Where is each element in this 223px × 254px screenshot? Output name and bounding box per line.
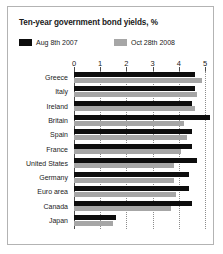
category-label-greece: Greece <box>45 74 68 82</box>
bar-spain-aug-2007 <box>74 129 192 134</box>
legend-label-oct-2008: Oct 28th 2008 <box>131 39 175 46</box>
category-label-canada: Canada <box>43 203 68 211</box>
tick-mark-4 <box>179 67 180 71</box>
bar-japan-aug-2007 <box>74 215 116 220</box>
bar-greece-aug-2007 <box>74 72 195 77</box>
bar-euro-area-aug-2007 <box>74 186 189 191</box>
bar-france-oct-2008 <box>74 149 181 154</box>
category-label-italy: Italy <box>55 88 68 96</box>
category-label-united-states: United States <box>26 160 68 168</box>
legend-item-aug-2007: Aug 8th 2007 <box>19 39 78 46</box>
bar-france-aug-2007 <box>74 144 192 149</box>
bar-britain-aug-2007 <box>74 115 210 120</box>
category-label-japan: Japan <box>49 217 68 225</box>
category-label-britain: Britain <box>48 117 68 125</box>
category-label-ireland: Ireland <box>47 103 68 111</box>
bar-canada-aug-2007 <box>74 201 192 206</box>
category-label-germany: Germany <box>39 174 68 182</box>
plot-area: 012345 GreeceItalyIrelandBritainSpainFra… <box>19 59 205 237</box>
tick-mark-0 <box>74 67 75 71</box>
bars-container <box>74 71 205 233</box>
category-label-euro-area: Euro area <box>37 188 68 196</box>
tick-mark-1 <box>100 67 101 71</box>
bar-germany-aug-2007 <box>74 172 189 177</box>
category-label-france: France <box>46 146 68 154</box>
tick-mark-2 <box>126 67 127 71</box>
bar-italy-aug-2007 <box>74 86 195 91</box>
bar-germany-oct-2008 <box>74 178 174 183</box>
gridline-5 <box>205 71 207 229</box>
chart-title: Ten-year government bond yields, % <box>19 18 158 27</box>
bar-united-states-aug-2007 <box>74 158 197 163</box>
bar-euro-area-oct-2008 <box>74 192 176 197</box>
x-axis-tick-labels: 012345 <box>19 59 205 70</box>
bar-greece-oct-2008 <box>74 78 202 83</box>
bar-united-states-oct-2008 <box>74 163 174 168</box>
legend-swatch-black-icon <box>19 39 32 46</box>
chart-frame: Ten-year government bond yields, % Aug 8… <box>7 6 214 245</box>
chart-legend: Aug 8th 2007 Oct 28th 2008 <box>19 39 209 51</box>
bar-ireland-aug-2007 <box>74 101 192 106</box>
legend-label-aug-2007: Aug 8th 2007 <box>36 39 78 46</box>
legend-swatch-gray-icon <box>114 39 127 46</box>
tick-mark-3 <box>153 67 154 71</box>
tick-mark-5 <box>205 67 206 71</box>
bar-japan-oct-2008 <box>74 221 113 226</box>
bar-ireland-oct-2008 <box>74 106 195 111</box>
bar-spain-oct-2008 <box>74 135 187 140</box>
legend-item-oct-2008: Oct 28th 2008 <box>114 39 175 46</box>
bar-italy-oct-2008 <box>74 92 197 97</box>
y-axis-category-labels: GreeceItalyIrelandBritainSpainFranceUnit… <box>19 71 71 231</box>
bar-britain-oct-2008 <box>74 121 184 126</box>
category-label-spain: Spain <box>50 131 68 139</box>
bar-canada-oct-2008 <box>74 206 171 211</box>
